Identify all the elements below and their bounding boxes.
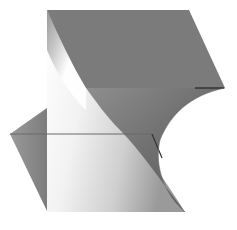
left-flap (10, 108, 47, 211)
rendered-surface-figure (0, 0, 237, 230)
surface-svg (0, 0, 237, 230)
